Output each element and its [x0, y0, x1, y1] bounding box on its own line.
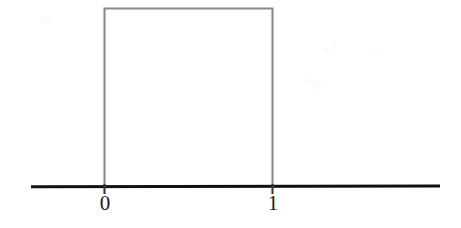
- curve-path: [105, 9, 273, 187]
- plot-area: [0, 0, 461, 228]
- x-tick-label-1: 1: [258, 193, 288, 214]
- figure-canvas: 0 1: [0, 0, 461, 228]
- x-tick-label-0: 0: [90, 193, 120, 214]
- x-axis-line: [31, 186, 440, 187]
- uniform-density-curve: [105, 9, 273, 187]
- axis-path: [31, 186, 440, 187]
